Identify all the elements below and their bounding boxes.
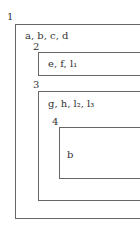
box-3-label: 3: [33, 80, 39, 90]
box-1-label: 1: [7, 12, 13, 22]
box-4-label: 4: [52, 117, 58, 127]
box-1-content: a, b, c, d: [25, 30, 68, 41]
box-2-content: e, f, l₁: [48, 58, 77, 69]
box-4-content: b: [67, 149, 73, 160]
box-2-label: 2: [33, 42, 39, 52]
box-3-content: g, h, l₂, l₃: [48, 98, 94, 109]
